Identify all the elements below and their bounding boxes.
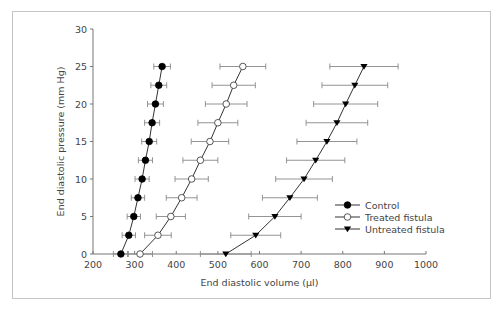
y-tick-label: 25 [75,61,87,72]
legend-marker-icon [344,202,351,209]
legend-item-untreated-fistula: Untreated fistula [335,224,445,235]
legend: ControlTreated fistulaUntreated fistula [335,200,445,235]
data-point [155,232,162,239]
data-point [137,251,144,258]
data-point [135,194,142,201]
data-point [142,157,149,164]
x-tick-label: 500 [209,259,227,270]
data-series [113,63,398,257]
data-point [223,101,230,108]
data-point [152,101,159,108]
y-axis-title: End diastolic pressure (mm Hg) [55,67,66,217]
data-point [125,232,132,239]
legend-item-control: Control [335,200,399,211]
y-tick-label: 5 [81,211,87,222]
x-tick-label: 200 [84,259,102,270]
legend-label: Treated fistula [364,212,433,223]
data-point [155,82,162,89]
data-point [207,138,214,145]
y-tick-label: 10 [75,174,87,185]
legend-marker-icon [344,214,351,221]
data-point [149,119,156,126]
data-point [159,63,166,70]
x-axis-title: End diastolic volume (µl) [201,277,319,288]
x-tick-label: 700 [292,259,310,270]
data-point [188,176,195,183]
data-point [230,82,237,89]
chart: 2003004005006007008009001000051015202530… [0,0,500,315]
data-point [178,194,185,201]
data-point [197,157,204,164]
x-tick-label: 600 [250,259,268,270]
y-tick-label: 30 [75,24,87,35]
legend-item-treated-fistula: Treated fistula [335,212,433,223]
data-point [118,251,125,258]
x-tick-label: 900 [375,259,393,270]
x-tick-label: 400 [167,259,185,270]
series-control [113,63,170,257]
y-tick-label: 15 [75,136,87,147]
data-point [146,138,153,145]
legend-label: Untreated fistula [365,224,445,235]
data-point [215,119,222,126]
legend-label: Control [365,200,399,211]
data-point [168,213,175,220]
x-tick-label: 1000 [414,259,438,270]
data-point [139,176,146,183]
y-tick-label: 0 [81,249,87,260]
data-point [130,213,137,220]
x-tick-label: 300 [126,259,144,270]
y-tick-label: 20 [75,99,87,110]
data-point [240,63,247,70]
x-tick-label: 800 [334,259,352,270]
